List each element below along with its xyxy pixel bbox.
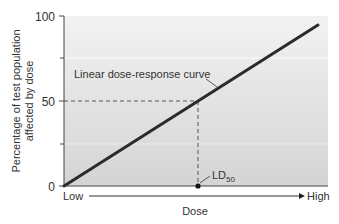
arrowhead-icon xyxy=(299,193,305,199)
y-tick-0: 0 xyxy=(48,180,55,194)
x-tick-low: Low xyxy=(63,190,83,202)
dose-response-chart: 100 50 0 Percentage of test population a… xyxy=(0,0,339,224)
y-tick-50: 50 xyxy=(42,95,56,109)
x-tick-high: High xyxy=(307,190,330,202)
y-axis-label-line2: affected by dose xyxy=(23,61,35,142)
x-axis-label: Dose xyxy=(182,205,208,217)
y-tick-100: 100 xyxy=(35,10,55,24)
curve-label: Linear dose-response curve xyxy=(74,68,210,80)
ld50-point xyxy=(195,183,200,188)
y-axis-label-line1: Percentage of test population xyxy=(10,29,22,172)
